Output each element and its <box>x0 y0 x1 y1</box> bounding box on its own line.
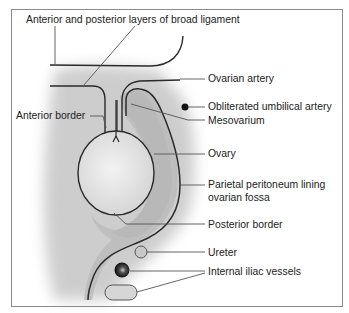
obliterated-umbilical-artery-shape <box>182 104 189 111</box>
label-ovarian-artery: Ovarian artery <box>208 73 275 84</box>
label-ovary: Ovary <box>208 148 237 159</box>
internal-iliac-artery-shape <box>115 263 130 278</box>
label-mesovarium: Mesovarium <box>208 115 265 126</box>
label-obliterated-umbilical-artery: Obliterated umbilical artery <box>208 101 332 112</box>
label-ureter: Ureter <box>208 247 237 258</box>
diagram-stage: Anterior and posterior layers of broad l… <box>0 0 349 313</box>
ureter-shape <box>135 246 147 258</box>
label-internal-iliac-vessels: Internal iliac vessels <box>208 266 301 277</box>
label-parietal-peritoneum-2: ovarian fossa <box>208 192 270 203</box>
ovarian-fossa-diagram: Anterior and posterior layers of broad l… <box>0 0 349 313</box>
label-anterior-border: Anterior border <box>16 110 86 121</box>
label-parietal-peritoneum-1: Parietal peritoneum lining <box>208 179 325 190</box>
label-broad-ligament: Anterior and posterior layers of broad l… <box>26 14 240 25</box>
ovary-shape <box>78 131 154 215</box>
label-posterior-border: Posterior border <box>208 219 283 230</box>
internal-iliac-vein-shape <box>105 285 137 300</box>
